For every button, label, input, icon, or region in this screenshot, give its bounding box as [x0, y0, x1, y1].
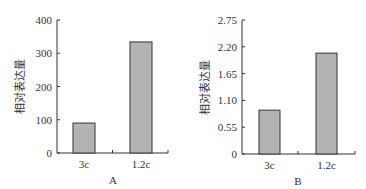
y-tick-label: 400 [36, 14, 53, 26]
panel-label: A [109, 174, 117, 186]
y-axis-label: 相对表达量 [13, 59, 27, 114]
y-tick-label: 100 [36, 114, 53, 126]
panel-label: B [294, 175, 301, 187]
y-tick-label: 2.20 [218, 41, 238, 53]
y-tick-label: 200 [36, 81, 53, 93]
y-tick-label: 2.75 [218, 14, 238, 26]
bar-1-2c [130, 42, 152, 153]
y-tick-label: 1.65 [218, 68, 238, 80]
bar-3c [259, 110, 280, 154]
chart-panel-a: 01002003004003c1.2cA相对表达量 [13, 14, 168, 186]
y-tick-label: 0.55 [218, 121, 238, 133]
y-tick-label: 300 [36, 47, 53, 59]
y-axis-label: 相对表达量 [198, 60, 212, 115]
bar-3c [73, 123, 95, 153]
x-category-label: 3c [264, 159, 275, 171]
x-category-label: 1.2c [132, 158, 151, 170]
bar-1-2c [316, 53, 337, 154]
y-tick-label: 0 [232, 148, 238, 160]
chart-panel-b: 00.551.101.652.202.753c1.2cB相对表达量 [198, 14, 355, 187]
x-category-label: 1.2c [317, 159, 336, 171]
y-tick-label: 1.10 [218, 94, 238, 106]
y-tick-label: 0 [47, 147, 53, 159]
x-category-label: 3c [79, 158, 90, 170]
figure: 01002003004003c1.2cA相对表达量00.551.101.652.… [0, 0, 366, 189]
